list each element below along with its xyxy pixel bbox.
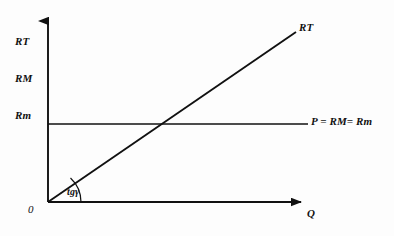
y-axis-label: RT RM Rm [15,10,32,145]
x-axis-label: Q [307,207,315,219]
y-axis-label-line-3: Rm [15,109,32,121]
total-revenue-line [48,32,296,202]
origin-label: 0 [28,203,34,215]
total-revenue-curve-label: RT [299,21,313,33]
y-axis-label-line-2: RM [15,72,32,84]
price-line-label: P = RM= Rm [311,115,372,127]
y-axis-label-line-1: RT [15,35,32,47]
angle-label: tgγ [67,186,79,197]
figure-canvas: RT RM Rm RT P = RM= Rm tgγ 0 Q [0,0,394,236]
